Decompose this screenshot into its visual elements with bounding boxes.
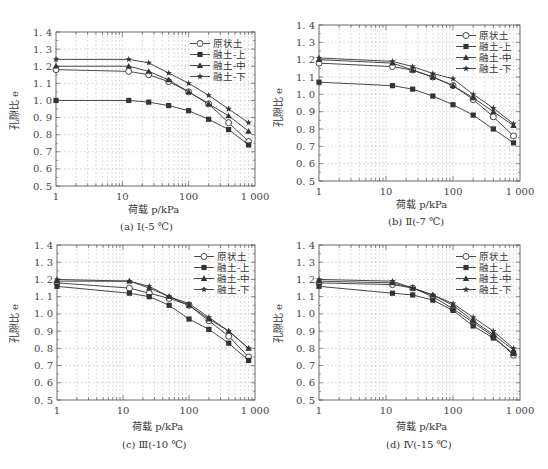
y-tick-label: 0. 8	[296, 124, 315, 135]
square-marker-icon	[226, 127, 231, 132]
square-marker-icon	[430, 93, 435, 98]
x-tick-label: 100	[179, 191, 198, 202]
square-marker-icon	[147, 294, 152, 299]
y-axis-label: 孔隙比 e	[270, 88, 285, 127]
legend-key	[455, 52, 477, 63]
x-tick-label: 1	[54, 405, 60, 416]
x-tick-label: 10	[116, 191, 129, 202]
y-tick-label: 0. 8	[33, 129, 52, 140]
legend-key	[189, 49, 211, 60]
y-tick-label: 0. 7	[33, 146, 52, 157]
legend-label: 融土-上	[479, 41, 512, 52]
y-tick-label: 1. 3	[34, 257, 53, 268]
legend-key	[193, 273, 215, 284]
star-marker-icon	[201, 286, 207, 292]
series-line	[54, 284, 251, 363]
legend-item: 融土-下	[193, 284, 250, 295]
legend: 原状土融土-上融土-中融土-下	[193, 251, 250, 295]
y-tick-label: 1. 0	[296, 308, 315, 319]
circle-marker-icon	[126, 68, 132, 74]
y-tick-label: 0. 5	[296, 176, 315, 187]
y-axis-label: 孔隙比 e	[6, 304, 21, 343]
y-tick-label: 0. 6	[34, 377, 53, 388]
star-marker-icon	[146, 59, 152, 65]
legend-item: 融土-中	[455, 273, 512, 284]
legend-key	[455, 284, 477, 295]
legend-label: 融土-中	[479, 273, 512, 284]
y-tick-label: 0. 5	[296, 395, 315, 406]
y-axis-label: 孔隙比 e	[6, 91, 21, 130]
legend-key	[189, 60, 211, 71]
legend-label: 融土-下	[213, 71, 246, 82]
legend-label: 原状土	[479, 251, 509, 262]
legend-label: 融土-上	[479, 262, 512, 273]
y-tick-label: 0. 9	[296, 106, 315, 117]
legend-label: 原状土	[479, 30, 509, 41]
legend-label: 融土-下	[479, 284, 512, 295]
x-tick-label: 10	[117, 405, 130, 416]
chart-panel-d: 0. 50. 60. 70. 80. 91. 01. 11. 21. 31. 4…	[274, 234, 548, 468]
y-tick-label: 0. 6	[33, 163, 52, 174]
y-tick-label: 0. 8	[34, 343, 53, 354]
square-marker-icon	[450, 308, 455, 313]
legend-label: 融土-中	[213, 60, 246, 71]
x-tick-label: 1	[316, 405, 322, 416]
x-tick-label: 10	[380, 405, 393, 416]
y-tick-label: 0. 9	[34, 326, 53, 337]
x-axis-label: 荷载 p/kPa	[396, 196, 447, 211]
y-tick-label: 0. 6	[296, 158, 315, 169]
y-tick-label: 1. 4	[296, 20, 315, 31]
circle-marker-icon	[511, 133, 517, 139]
y-tick-label: 1. 0	[33, 95, 52, 106]
legend-key	[455, 41, 477, 52]
square-marker-icon	[186, 316, 191, 321]
y-tick-label: 1. 3	[33, 44, 52, 55]
square-marker-icon	[410, 292, 415, 297]
triangle-marker-icon	[225, 113, 231, 119]
y-tick-label: 1. 3	[296, 257, 315, 268]
panel-caption: (c) Ⅲ(-10 ℃)	[122, 439, 187, 450]
x-axis-label: 荷载 p/kPa	[396, 418, 447, 433]
x-tick-label: 100	[179, 405, 198, 416]
y-tick-label: 1. 1	[296, 291, 315, 302]
legend-item: 原状土	[455, 251, 512, 262]
square-marker-icon	[226, 341, 231, 346]
legend-label: 融土-下	[217, 284, 250, 295]
y-tick-label: 0. 7	[296, 360, 315, 371]
star-marker-icon	[126, 56, 132, 62]
square-marker-icon	[463, 265, 468, 270]
legend-item: 融土-上	[455, 262, 512, 273]
square-marker-icon	[316, 284, 321, 289]
legend: 原状土融土-上融土-中融土-下	[455, 251, 512, 295]
legend-key	[455, 63, 477, 74]
star-marker-icon	[165, 70, 171, 76]
x-tick-label: 1	[53, 191, 59, 202]
chart-panel-a: 0. 50. 60. 70. 80. 91. 01. 11. 21. 31. 4…	[0, 0, 274, 234]
y-tick-label: 0. 7	[296, 141, 315, 152]
circle-marker-icon	[463, 254, 469, 260]
square-marker-icon	[471, 323, 476, 328]
chart-panel-c: 0. 50. 60. 70. 80. 91. 01. 11. 21. 31. 4…	[0, 234, 274, 468]
legend-key	[189, 38, 211, 49]
legend-item: 原状土	[455, 30, 512, 41]
series-line	[53, 98, 251, 148]
y-tick-label: 1. 2	[296, 274, 315, 285]
legend-item: 融土-上	[189, 49, 246, 60]
star-marker-icon	[463, 286, 469, 292]
x-axis-label: 荷载 p/kPa	[128, 201, 179, 216]
square-marker-icon	[166, 103, 171, 108]
legend-key	[455, 30, 477, 41]
legend-item: 融土-下	[455, 63, 512, 74]
y-tick-label: 1. 2	[34, 274, 53, 285]
y-tick-label: 1. 2	[296, 54, 315, 65]
square-marker-icon	[167, 303, 172, 308]
y-tick-label: 1. 1	[33, 78, 52, 89]
y-tick-label: 0. 9	[33, 112, 52, 123]
y-tick-label: 0. 7	[34, 360, 53, 371]
circle-marker-icon	[226, 333, 232, 339]
x-tick-label: 1 000	[506, 405, 535, 416]
legend-key	[189, 71, 211, 82]
legend-item: 融土-中	[189, 60, 246, 71]
square-marker-icon	[146, 100, 151, 105]
legend-label: 融土-上	[217, 262, 250, 273]
